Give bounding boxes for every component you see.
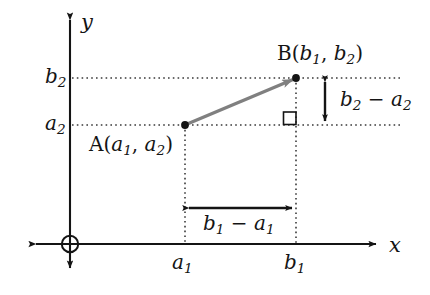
point-b-label: B(b1, b2) <box>277 43 363 63</box>
tick-base: b <box>45 64 58 88</box>
y-axis-label: y <box>81 12 93 33</box>
coord-y-base: b <box>334 41 347 65</box>
point-a-label: A(a1, a2) <box>89 134 173 154</box>
tick-sub: 1 <box>184 260 193 276</box>
subtrahend-sub: 1 <box>266 221 275 237</box>
point-name: B <box>277 41 292 65</box>
right-angle-marker-icon <box>284 112 297 125</box>
coord-y-sub: 2 <box>347 51 356 67</box>
paren-open: ( <box>292 41 300 65</box>
coord-x-sub: 1 <box>123 142 132 158</box>
coord-y-sub: 2 <box>157 142 166 158</box>
tick-base: a <box>172 250 184 274</box>
x-tick-label-b1: b1 <box>284 252 305 272</box>
subtrahend-base: a <box>391 87 403 111</box>
point-b-dot <box>292 74 300 82</box>
coord-sep: , <box>132 132 145 156</box>
minus-operator: − <box>361 87 390 111</box>
vector-ab-group <box>181 74 300 129</box>
x-axis-label: x <box>389 235 401 256</box>
y-tick-label-a2: a2 <box>45 113 66 133</box>
tick-sub: 2 <box>58 74 67 90</box>
minuend-base: b <box>340 87 353 111</box>
tick-base: a <box>45 111 57 135</box>
tick-base: b <box>284 250 297 274</box>
diagram-canvas <box>0 0 430 295</box>
subtrahend-base: a <box>254 211 266 235</box>
subtrahend-sub: 2 <box>403 97 412 113</box>
tick-sub: 2 <box>57 121 66 137</box>
coord-sep: , <box>321 41 334 65</box>
vector-diagram-figure: y x b2 a2 a1 b1 B(b1, b2) A(a1, a2) b2 −… <box>0 0 430 295</box>
x-tick-label-a1: a1 <box>172 252 193 272</box>
coord-x-base: b <box>300 41 313 65</box>
paren-close: ) <box>165 132 173 156</box>
coord-x-sub: 1 <box>312 51 321 67</box>
minus-operator: − <box>224 211 253 235</box>
vector-ab-shaft <box>186 80 293 125</box>
coord-x-base: a <box>111 132 123 156</box>
vertical-difference-label: b2 − a2 <box>340 89 412 109</box>
coord-y-base: a <box>145 132 157 156</box>
point-name: A <box>89 132 103 156</box>
y-tick-label-b2: b2 <box>45 66 66 86</box>
horizontal-difference-label: b1 − a1 <box>203 213 275 233</box>
point-a-dot <box>181 121 189 129</box>
paren-close: ) <box>355 41 363 65</box>
minuend-base: b <box>203 211 216 235</box>
tick-sub: 1 <box>297 260 306 276</box>
